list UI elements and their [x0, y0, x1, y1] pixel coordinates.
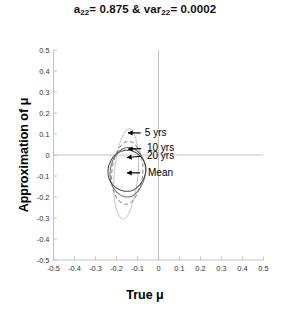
x-tick-label: -0.3	[89, 264, 102, 273]
x-tick-label: 0.2	[195, 264, 205, 273]
annotation-arrowhead	[127, 170, 132, 175]
annotation-mean: Mean	[127, 167, 173, 178]
annotation-5-yrs: 5 yrs	[128, 127, 166, 138]
y-tick-label: 0	[45, 151, 49, 160]
x-axis-label: True μ	[0, 288, 290, 302]
x-tick-label: 0.1	[174, 264, 184, 273]
y-tick-label: -0.1	[37, 172, 50, 181]
plot-svg: 5 yrs10 yrs20 yrsMean -0.5-0.4-0.3-0.2-0…	[0, 0, 290, 315]
y-tick-label: -0.2	[37, 193, 50, 202]
y-tick-label: 0.5	[39, 46, 49, 55]
y-tick-label: 0.1	[39, 130, 49, 139]
x-tick-label: -0.5	[47, 264, 60, 273]
x-tick-label: -0.1	[131, 264, 144, 273]
y-axis-label: Approximation of μ	[17, 75, 31, 235]
y-tick-label: -0.4	[37, 235, 50, 244]
y-tick-label: 0.2	[39, 109, 49, 118]
x-tick-label: 0.4	[237, 264, 247, 273]
y-tick-label: 0.3	[39, 88, 49, 97]
y-tick-label: -0.3	[37, 214, 50, 223]
annotation-label: 20 yrs	[147, 150, 174, 161]
x-tick-label: -0.4	[68, 264, 81, 273]
x-tick-label: 0	[156, 264, 160, 273]
plot-area: 5 yrs10 yrs20 yrsMean -0.5-0.4-0.3-0.2-0…	[0, 0, 290, 315]
annotation-label: Mean	[148, 167, 173, 178]
annotation-label: 5 yrs	[145, 127, 167, 138]
curves-layer	[108, 129, 146, 219]
chart-root: a22= 0.875 & var22= 0.0002 5 yrs10 yrs20…	[0, 0, 290, 315]
x-tick-label: 0.5	[258, 264, 268, 273]
y-tick-label: -0.5	[37, 256, 50, 265]
y-tick-label: 0.4	[39, 67, 49, 76]
x-tick-label: -0.2	[110, 264, 123, 273]
x-tick-label: 0.3	[216, 264, 226, 273]
annotation-arrowhead	[128, 130, 133, 135]
